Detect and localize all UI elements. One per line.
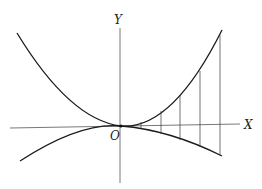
diagram-canvas: Y X O [0,0,262,189]
upper-curve [17,30,222,126]
origin-label: O [110,129,120,143]
y-axis-label: Y [114,13,123,27]
lower-curve [20,126,222,161]
origin-point [120,125,123,128]
x-axis-label: X [243,118,253,132]
